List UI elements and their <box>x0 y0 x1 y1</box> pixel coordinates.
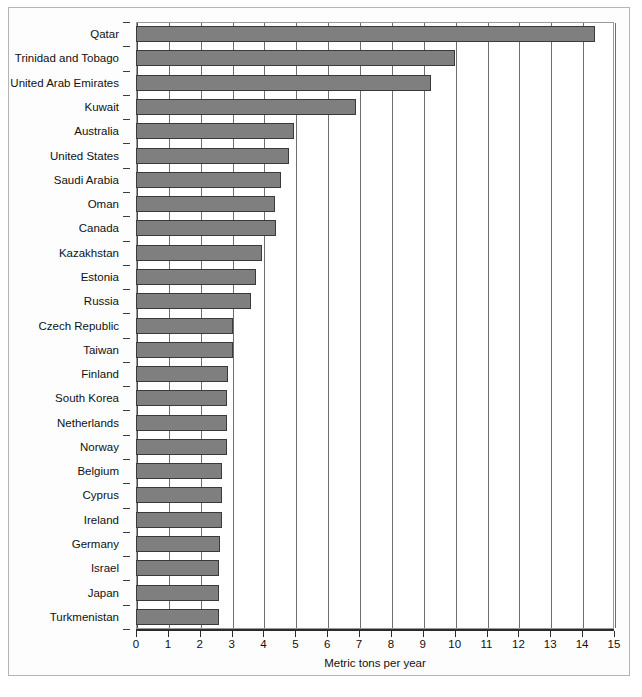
bar-row <box>136 148 614 164</box>
bar[interactable] <box>136 220 276 236</box>
category-label: Oman <box>88 198 119 210</box>
category-tick <box>123 556 130 557</box>
x-tick-label: 2 <box>185 638 215 650</box>
x-tick-label: 8 <box>376 638 406 650</box>
bar[interactable] <box>136 512 222 528</box>
category-tick <box>123 22 130 23</box>
category-label: Belgium <box>77 465 119 477</box>
category-label: Trinidad and Tobago <box>15 52 119 64</box>
bar[interactable] <box>136 439 227 455</box>
category-tick <box>123 459 130 460</box>
bar[interactable] <box>136 293 251 309</box>
figure: QatarTrinidad and TobagoUnited Arab Emir… <box>0 0 642 697</box>
category-label: Canada <box>79 222 119 234</box>
category-label: Kazakhstan <box>59 247 119 259</box>
gridline-15 <box>615 23 616 628</box>
x-axis-title: Metric tons per year <box>136 657 614 669</box>
bar-row <box>136 463 614 479</box>
x-tick <box>168 631 169 637</box>
bar[interactable] <box>136 585 219 601</box>
category-label: Japan <box>88 587 119 599</box>
bar-row <box>136 75 614 91</box>
bar[interactable] <box>136 26 595 42</box>
category-label: Kuwait <box>84 101 119 113</box>
x-axis-line <box>136 629 614 631</box>
category-label: Netherlands <box>57 417 119 429</box>
bar[interactable] <box>136 536 220 552</box>
bar-row <box>136 50 614 66</box>
category-tick <box>123 435 130 436</box>
x-tick-label: 5 <box>280 638 310 650</box>
bar-row <box>136 245 614 261</box>
x-tick-label: 6 <box>312 638 342 650</box>
x-tick <box>136 631 137 637</box>
bar-row <box>136 560 614 576</box>
category-tick <box>123 508 130 509</box>
bar[interactable] <box>136 415 227 431</box>
x-tick <box>550 631 551 637</box>
category-label: Turkmenistan <box>50 611 119 623</box>
x-tick-label: 3 <box>217 638 247 650</box>
bar-row <box>136 172 614 188</box>
x-tick <box>295 631 296 637</box>
bar[interactable] <box>136 390 227 406</box>
bar[interactable] <box>136 487 222 503</box>
x-tick <box>359 631 360 637</box>
bar[interactable] <box>136 172 281 188</box>
bar[interactable] <box>136 75 431 91</box>
category-label: Finland <box>81 368 119 380</box>
category-tick <box>123 119 130 120</box>
bar[interactable] <box>136 609 219 625</box>
category-label: South Korea <box>55 392 119 404</box>
bar-row <box>136 269 614 285</box>
bar-row <box>136 99 614 115</box>
category-tick <box>123 192 130 193</box>
x-tick <box>423 631 424 637</box>
bar-row <box>136 318 614 334</box>
bar[interactable] <box>136 245 262 261</box>
x-tick-label: 11 <box>472 638 502 650</box>
bar[interactable] <box>136 366 228 382</box>
bar-row <box>136 220 614 236</box>
bar[interactable] <box>136 318 233 334</box>
category-label: Australia <box>74 125 119 137</box>
category-tick <box>123 386 130 387</box>
category-tick <box>123 95 130 96</box>
category-tick <box>123 216 130 217</box>
category-tick <box>123 483 130 484</box>
bar[interactable] <box>136 123 294 139</box>
bar[interactable] <box>136 99 356 115</box>
category-label: Estonia <box>81 271 119 283</box>
category-label: Czech Republic <box>38 320 119 332</box>
category-tick <box>123 580 130 581</box>
x-tick-label: 10 <box>440 638 470 650</box>
category-label: United Arab Emirates <box>10 77 119 89</box>
bar[interactable] <box>136 148 289 164</box>
bar[interactable] <box>136 342 233 358</box>
category-tick <box>123 168 130 169</box>
bar[interactable] <box>136 463 222 479</box>
x-tick-label: 1 <box>153 638 183 650</box>
x-tick <box>487 631 488 637</box>
bar-row <box>136 536 614 552</box>
category-label: Qatar <box>90 28 119 40</box>
bar-row <box>136 342 614 358</box>
category-tick <box>123 241 130 242</box>
bar[interactable] <box>136 196 275 212</box>
category-tick <box>123 532 130 533</box>
x-tick <box>327 631 328 637</box>
category-label: Israel <box>91 562 119 574</box>
category-label: Norway <box>80 441 119 453</box>
bar[interactable] <box>136 269 256 285</box>
x-tick <box>614 631 615 637</box>
bar[interactable] <box>136 560 219 576</box>
category-label: United States <box>50 150 119 162</box>
x-tick <box>455 631 456 637</box>
bar[interactable] <box>136 50 455 66</box>
category-axis: QatarTrinidad and TobagoUnited Arab Emir… <box>0 22 130 629</box>
x-tick-label: 14 <box>567 638 597 650</box>
x-tick <box>263 631 264 637</box>
bar-row <box>136 487 614 503</box>
x-tick-label: 15 <box>599 638 629 650</box>
x-tick <box>232 631 233 637</box>
